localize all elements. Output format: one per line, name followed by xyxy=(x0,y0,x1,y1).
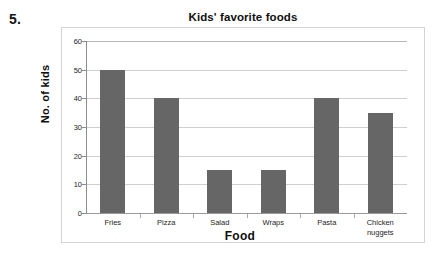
bar-wraps[interactable] xyxy=(261,170,286,213)
bar-pizza[interactable] xyxy=(154,98,179,213)
bar-fries[interactable] xyxy=(100,70,125,213)
y-tick-mark-0 xyxy=(82,213,86,214)
question-number: 5. xyxy=(9,11,21,27)
y-tick-mark-60 xyxy=(82,41,86,42)
y-tick-label-50: 50 xyxy=(60,65,82,74)
x-axis-title: Food xyxy=(90,229,390,243)
y-axis-tick-labels: 6050403020100 xyxy=(58,41,82,213)
y-tick-label-10: 10 xyxy=(60,180,82,189)
chart-title: Kids' favorite foods xyxy=(61,11,425,23)
bar-slot-pizza xyxy=(140,41,194,213)
y-tick-label-20: 20 xyxy=(60,151,82,160)
bar-salad[interactable] xyxy=(207,170,232,213)
y-tick-label-30: 30 xyxy=(60,123,82,132)
bar-chicken-nuggets[interactable] xyxy=(368,113,393,213)
y-tick-mark-30 xyxy=(82,127,86,128)
y-tick-label-0: 0 xyxy=(60,209,82,218)
bar-slot-salad xyxy=(193,41,247,213)
y-axis-title: No. of kids xyxy=(39,46,51,142)
y-tick-label-60: 60 xyxy=(60,37,82,46)
y-tick-mark-50 xyxy=(82,70,86,71)
y-tick-mark-40 xyxy=(82,98,86,99)
bar-slot-pasta xyxy=(300,41,354,213)
y-tick-mark-20 xyxy=(82,156,86,157)
bar-slot-fries xyxy=(86,41,140,213)
bar-slot-wraps xyxy=(247,41,301,213)
bar-series xyxy=(86,41,407,213)
bar-slot-chicken-nuggets xyxy=(354,41,408,213)
y-tick-mark-10 xyxy=(82,184,86,185)
bar-pasta[interactable] xyxy=(314,98,339,213)
y-tick-label-40: 40 xyxy=(60,94,82,103)
